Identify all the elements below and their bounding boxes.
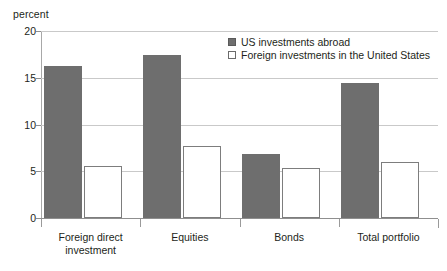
bar [84,166,122,218]
bar [143,55,181,218]
bar [282,168,320,218]
axis-bottom-rule [41,227,438,228]
hollow-square-icon [228,51,236,59]
gridline-15 [41,78,438,79]
y-axis-tick-label: 10 [12,119,36,131]
bar [44,66,82,218]
category-separator-tick [438,219,439,228]
legend-item-us-investments-abroad: US investments abroad [228,35,438,48]
filled-square-icon [228,38,236,46]
category-label: Foreign direct investment [41,231,140,256]
bar [242,154,280,218]
y-axis-tick-label: 15 [12,72,36,84]
category-label: Total portfolio [339,231,438,244]
category-label: Equities [140,231,239,244]
chart-legend: US investments abroad Foreign investment… [224,31,438,65]
bar-chart: percent 05101520 Foreign direct investme… [0,0,447,271]
y-axis-tick-label: 5 [12,165,36,177]
y-axis-tick-label: 0 [12,212,36,224]
category-label: Bonds [240,231,339,244]
legend-item-foreign-investments-in-the-united-states: Foreign investments in the United States [228,48,438,61]
y-axis-unit-label: percent [13,8,49,20]
bar [183,146,221,218]
bar [341,83,379,218]
legend-item-label: Foreign investments in the United States [241,49,430,61]
bar [381,162,419,218]
legend-item-label: US investments abroad [241,36,350,48]
y-axis-tick-label: 20 [12,25,36,37]
